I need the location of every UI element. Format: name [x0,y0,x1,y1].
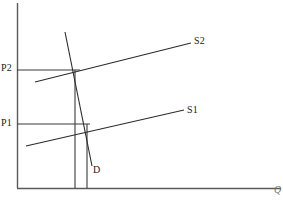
demand-curve-d [65,32,92,166]
price-label-p1: P1 [1,118,12,128]
x-axis-label: Q [274,185,281,195]
curve-label-s2: S2 [194,36,205,46]
price-label-p2: P2 [1,63,12,73]
supply-curve-s1 [26,110,184,146]
curve-label-s1: S1 [187,105,198,115]
supply-demand-chart: P2 P1 S2 S1 D Q [0,0,283,200]
supply-curve-s2 [35,43,191,82]
curve-label-d: D [93,165,100,175]
chart-canvas [0,0,283,200]
